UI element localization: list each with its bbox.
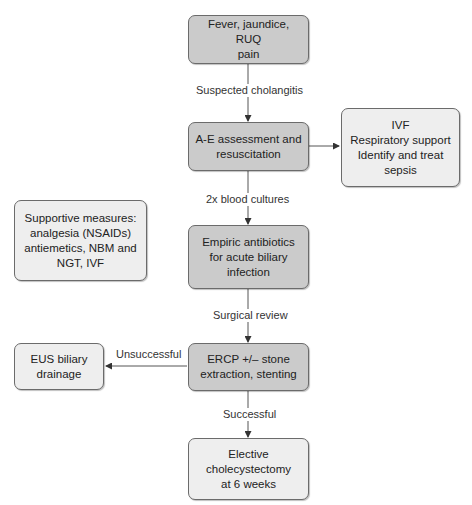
node-antibiotics: Empiric antibiotics for acute biliary in… (188, 225, 309, 289)
edge-label-unsuccessful: Unsuccessful (114, 348, 183, 361)
node-cholecystectomy: Elective cholecystectomy at 6 weeks (188, 438, 309, 500)
node-presentation: Fever, jaundice, RUQ pain (188, 15, 309, 64)
node-ercp: ERCP +/– stone extraction, stenting (188, 343, 309, 391)
node-eus: EUS biliary drainage (14, 343, 104, 390)
edge-label-successful: Successful (221, 408, 278, 421)
node-supportive: Supportive measures: analgesia (NSAIDs) … (14, 200, 147, 281)
edge-label-cultures: 2x blood cultures (204, 193, 291, 206)
edge-label-suspected: Suspected cholangitis (194, 84, 305, 97)
node-assessment: A-E assessment and resuscitation (188, 122, 309, 171)
edge-label-surgical: Surgical review (211, 309, 290, 322)
node-resus-details: IVF Respiratory support Identify and tre… (341, 108, 460, 187)
